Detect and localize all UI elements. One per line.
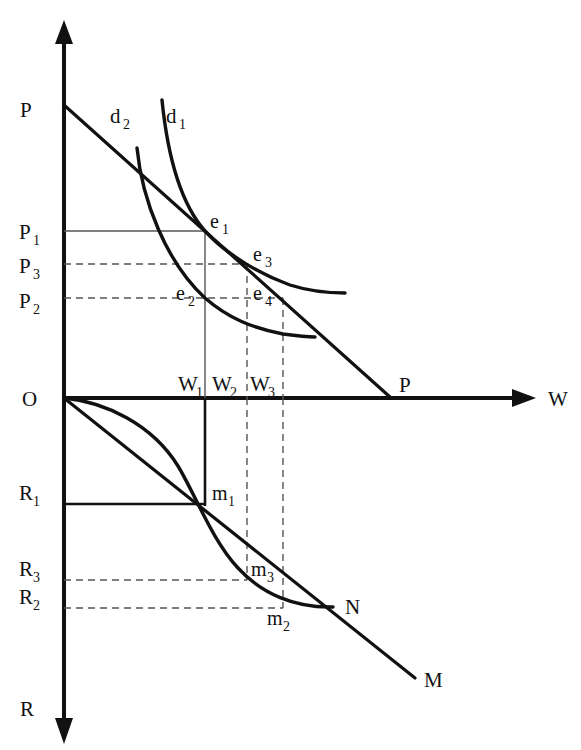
axis-label-origin: O — [22, 387, 37, 411]
tick-label-P3-subscript: 3 — [33, 267, 40, 282]
price-tick-labels: P 1 P 3 P 2 — [19, 220, 40, 317]
tick-label-P2-subscript: 2 — [33, 302, 40, 317]
right-arrow-icon — [512, 389, 536, 407]
point-label-e3: e — [253, 243, 262, 265]
axis-label-P: P — [20, 98, 32, 122]
point-label-e2: e — [176, 282, 185, 304]
tick-label-W2-subscript: 2 — [230, 385, 237, 400]
point-label-m1-subscript: 1 — [228, 494, 235, 509]
curve-label-d1: d — [166, 104, 177, 128]
point-label-e1-subscript: 1 — [222, 222, 229, 237]
tick-label-W3: W — [250, 372, 270, 396]
point-label-m3: m — [251, 558, 267, 580]
up-arrow-icon — [55, 20, 73, 44]
point-label-m2: m — [267, 607, 283, 629]
curve-label-M: M — [424, 668, 443, 692]
economics-diagram: P R W O d 2 d 1 P M N P 1 P 3 P 2 R 1 R … — [0, 0, 581, 750]
tick-label-R2: R — [19, 585, 33, 609]
rent-tick-labels: R 1 R 3 R 2 — [19, 481, 40, 613]
point-label-N: N — [345, 595, 360, 619]
tick-label-P3: P — [19, 254, 31, 278]
wage-tick-labels: W 1 W 2 W 3 — [178, 372, 275, 400]
curve-label-d1-subscript: 1 — [179, 117, 186, 132]
tick-label-W3-subscript: 3 — [268, 385, 275, 400]
point-label-e3-subscript: 3 — [265, 255, 272, 270]
curve-label-d2-subscript: 2 — [123, 117, 130, 132]
point-label-m2-subscript: 2 — [283, 619, 290, 634]
point-label-m3-subscript: 3 — [267, 570, 274, 585]
point-label-m1: m — [212, 482, 228, 504]
point-label-e2-subscript: 2 — [188, 294, 195, 309]
tick-label-R3: R — [19, 557, 33, 581]
curve-label-P-intercept: P — [399, 373, 411, 397]
tick-label-P1: P — [19, 220, 31, 244]
equilibrium-point-labels: e 1 e 2 e 3 e 4 — [176, 210, 272, 309]
tick-label-W1-subscript: 1 — [196, 385, 203, 400]
tick-label-R1-subscript: 1 — [33, 494, 40, 509]
point-label-e4-subscript: 4 — [265, 294, 272, 309]
tick-label-P1-subscript: 1 — [33, 233, 40, 248]
upper-curves — [64, 100, 390, 397]
money-point-labels: m 1 m 2 m 3 — [212, 482, 290, 634]
point-label-e1: e — [210, 210, 219, 232]
axis-labels: P R W O — [20, 98, 568, 721]
tick-label-W2: W — [212, 372, 232, 396]
point-label-e4: e — [253, 282, 262, 304]
demand-curve-d2 — [137, 148, 315, 337]
tick-label-W1: W — [178, 372, 198, 396]
lower-curves — [64, 398, 415, 678]
axis-label-W: W — [548, 387, 568, 411]
tick-label-R2-subscript: 2 — [33, 598, 40, 613]
tick-label-P2: P — [19, 289, 31, 313]
tick-label-R3-subscript: 3 — [33, 570, 40, 585]
money-line-OM — [64, 398, 415, 678]
curve-label-d2: d — [110, 104, 121, 128]
down-arrow-icon — [55, 718, 73, 744]
tick-label-R1: R — [19, 481, 33, 505]
diagram-canvas: P R W O d 2 d 1 P M N P 1 P 3 P 2 R 1 R … — [0, 0, 581, 750]
axis-label-R: R — [20, 697, 34, 721]
